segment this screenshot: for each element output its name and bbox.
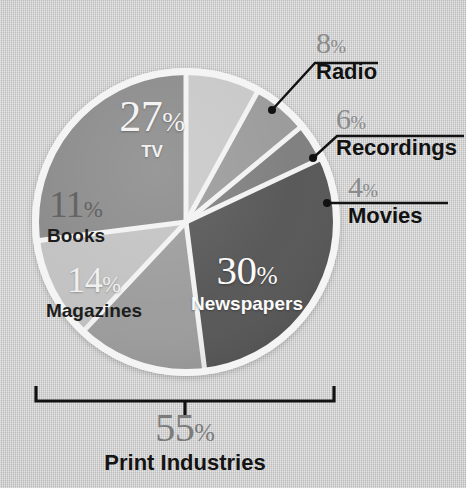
print-industries-bracket <box>36 386 334 415</box>
pie-shading-overlay <box>38 74 334 370</box>
callout-label-movies: 4% Movies <box>345 172 423 228</box>
callout-name-recordings: Recordings <box>333 135 457 160</box>
callout-percent-radio: 8% <box>313 28 377 58</box>
callout-percent-movies: 4% <box>345 172 423 202</box>
pie-chart <box>0 0 466 488</box>
percent-sign: % <box>331 36 347 57</box>
callout-label-recordings: 6% Recordings <box>333 104 457 160</box>
callout-percent-recordings: 6% <box>333 104 457 134</box>
bracket-span <box>36 386 334 401</box>
callout-name-movies: Movies <box>345 203 423 228</box>
callout-label-radio: 8% Radio <box>313 28 377 84</box>
percent-sign: % <box>363 180 379 201</box>
infographic-canvas: 27% TV 30% Newspapers 11% Books 14% Maga… <box>0 0 466 488</box>
callout-name-radio: Radio <box>313 59 377 84</box>
percent-sign: % <box>351 112 367 133</box>
